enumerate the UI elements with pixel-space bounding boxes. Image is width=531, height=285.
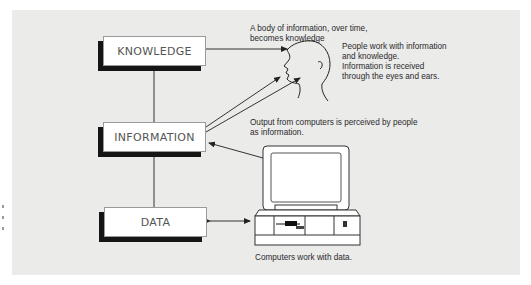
computer-note: Computers work with data. <box>255 253 352 263</box>
information-box: INFORMATION <box>103 122 206 152</box>
people-note: People work with information and knowled… <box>342 42 447 82</box>
knowledge-label: KNOWLEDGE <box>117 45 192 58</box>
human-head-icon <box>284 41 330 101</box>
knowledge-note: A body of information, over time, become… <box>250 24 367 44</box>
knowledge-box: KNOWLEDGE <box>103 36 206 66</box>
output-note: Output from computers is perceived by pe… <box>250 118 417 138</box>
computer-icon <box>255 146 360 245</box>
data-box: DATA <box>104 207 207 237</box>
data-label: DATA <box>141 216 171 229</box>
margin-marks <box>2 205 6 245</box>
information-label: INFORMATION <box>114 131 194 144</box>
